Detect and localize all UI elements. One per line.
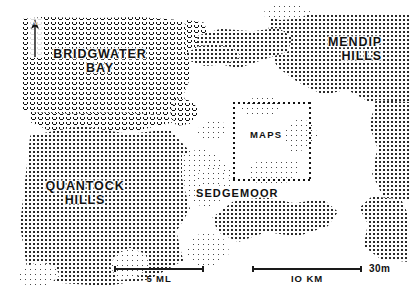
sea-texture-estuary-tip bbox=[170, 98, 200, 126]
label-maps-inset: MAPS bbox=[250, 130, 282, 140]
inset-box-edge-bottom bbox=[233, 179, 311, 181]
label-bridgwater-bay: BRIDGWATER BAY bbox=[46, 48, 154, 75]
label-mendip-hills: MENDIP HILLS bbox=[300, 36, 382, 63]
inset-box-edge-left bbox=[233, 102, 235, 181]
inset-box-edge-top bbox=[233, 102, 311, 104]
scale-bar-miles: 5 ML bbox=[114, 268, 204, 284]
scale-bar-kilometres: IO KM bbox=[252, 268, 362, 284]
label-corner-note: 30m bbox=[369, 264, 390, 275]
land-texture-polden-ridge bbox=[210, 196, 338, 242]
land-texture-moor-island-a bbox=[186, 232, 230, 268]
svg-text:N: N bbox=[33, 20, 37, 26]
scale-bar-kilometres-label: IO KM bbox=[252, 273, 362, 284]
scale-bar-miles-cap-right bbox=[202, 266, 204, 272]
scale-bar-miles-label: 5 ML bbox=[114, 273, 204, 284]
scale-bar-kilometres-cap-left bbox=[252, 266, 254, 272]
inset-box-edge-right bbox=[309, 102, 311, 181]
land-texture-southwest-islet bbox=[18, 262, 60, 288]
land-texture-east-lower bbox=[356, 196, 409, 262]
inset-detail-box[interactable] bbox=[233, 102, 311, 181]
scale-bar-miles-cap-left bbox=[114, 266, 116, 272]
north-arrow-icon: N bbox=[28, 18, 42, 58]
label-sedgemoor: SEDGEMOOR bbox=[196, 188, 279, 200]
label-quantock-hills: QUANTOCK HILLS bbox=[33, 180, 137, 207]
map-figure: N BRIDGWATER BAY MENDIP HILLS QUANTOCK H… bbox=[0, 0, 409, 294]
scale-bar-miles-line bbox=[114, 268, 204, 270]
land-texture-quantock-outlier bbox=[196, 120, 230, 142]
scale-bar-kilometres-cap-right bbox=[360, 266, 362, 272]
land-texture-east-edge bbox=[366, 100, 409, 200]
scale-bar-kilometres-line bbox=[252, 268, 362, 270]
